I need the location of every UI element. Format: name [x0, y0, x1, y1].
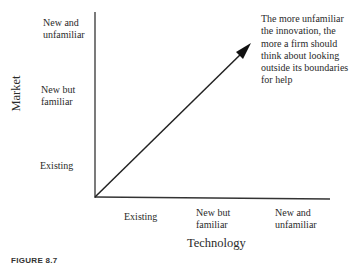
- y-tick-line1: Existing: [40, 160, 73, 172]
- figure-caption: FIGURE 8.7: [11, 256, 58, 265]
- annotation-line: outside its boundaries: [261, 62, 348, 74]
- x-axis-title: Technology: [187, 236, 246, 251]
- x-tick-line1: New and: [275, 207, 317, 219]
- y-tick-line2: familiar: [41, 96, 75, 108]
- annotation-line: for help: [261, 74, 348, 86]
- y-tick-existing: Existing: [40, 160, 73, 172]
- annotation-line: more a firm should: [261, 38, 348, 50]
- x-tick-line2: familiar: [196, 219, 230, 231]
- x-tick-line1: Existing: [124, 211, 157, 223]
- x-tick-line2: unfamiliar: [275, 219, 317, 231]
- x-tick-existing: Existing: [124, 211, 157, 223]
- x-axis-line: [95, 197, 330, 199]
- innovation-arrow-shaft: [95, 51, 244, 197]
- y-tick-new-unfamiliar: New and unfamiliar: [43, 17, 85, 41]
- annotation-line: the innovation, the: [261, 25, 348, 37]
- x-tick-new-familiar: New but familiar: [196, 207, 230, 231]
- annotation-text: The more unfamiliar the innovation, the …: [261, 13, 348, 87]
- y-tick-line1: New but: [41, 84, 75, 96]
- y-tick-line2: unfamiliar: [43, 29, 85, 41]
- y-tick-new-familiar: New but familiar: [41, 84, 75, 108]
- y-axis-title: Market: [9, 74, 24, 114]
- annotation-line: think about looking: [261, 50, 348, 62]
- y-tick-line1: New and: [43, 17, 85, 29]
- x-tick-new-unfamiliar: New and unfamiliar: [275, 207, 317, 231]
- annotation-line: The more unfamiliar: [261, 13, 348, 25]
- x-tick-line1: New but: [196, 207, 230, 219]
